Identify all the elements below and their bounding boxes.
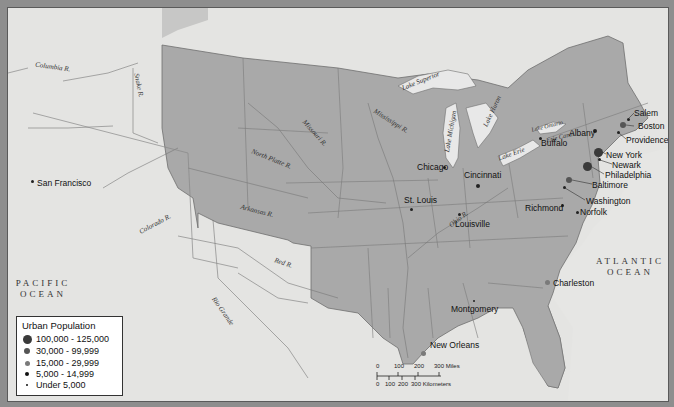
legend-symbol-small-gray-circle — [25, 361, 30, 366]
city-label-salem: Salem — [634, 109, 658, 118]
legend-label: 30,000 - 99,999 — [36, 346, 99, 356]
legend-title: Urban Population — [22, 320, 95, 331]
legend-symbol-tiny-dot — [26, 384, 29, 387]
ocean-label-pacific: PACIFIC OCEAN — [8, 278, 78, 301]
city-label-washington: Washington — [586, 197, 631, 206]
city-label-montgomery: Montgomery — [451, 305, 498, 314]
city-dot-louisville — [458, 213, 461, 216]
city-label-albany: Albany — [569, 129, 595, 138]
city-label-louisville: Louisville — [455, 220, 490, 229]
legend-label: 15,000 - 29,999 — [36, 358, 99, 368]
ocean-label-atlantic: ATLANTIC OCEAN — [590, 256, 669, 279]
city-dot-salem — [627, 118, 630, 121]
legend-label: 5,000 - 14,999 — [36, 369, 94, 379]
city-label-san-francisco: San Francisco — [37, 179, 91, 188]
legend-symbol-small-dot — [25, 372, 29, 376]
legend: Urban Population 100,000 - 125,000 30,00… — [16, 316, 123, 396]
legend-symbol-large-circle — [23, 335, 32, 344]
city-dot-newark — [598, 158, 601, 161]
legend-item-under-5000: Under 5,000 — [22, 380, 86, 390]
city-label-richmond: Richmond — [525, 204, 563, 213]
scale-bar: 0 100 200 300 Miles 0 100 200 300 Kilome… — [376, 363, 516, 391]
city-label-chicago: Chicago — [417, 163, 448, 172]
city-label-st-louis: St. Louis — [404, 196, 437, 205]
city-dot-norfolk — [576, 211, 579, 214]
city-dot-philadelphia — [583, 162, 592, 171]
city-label-boston: Boston — [638, 122, 664, 131]
city-dot-baltimore — [566, 177, 572, 183]
city-label-newark: Newark — [612, 161, 641, 170]
scale-miles-300: 300 Miles — [434, 363, 460, 369]
city-dot-boston — [620, 122, 626, 128]
city-dot-montgomery — [473, 300, 475, 302]
scale-miles-0: 0 — [376, 363, 379, 369]
city-label-buffalo: Buffalo — [541, 139, 567, 148]
city-label-philadelphia: Philadelphia — [605, 171, 651, 180]
city-label-charleston: Charleston — [553, 279, 594, 288]
map-canvas: PACIFIC OCEAN ATLANTIC OCEAN Columbia R.… — [7, 7, 669, 402]
scale-miles-100: 100 — [394, 363, 404, 369]
city-dot-providence — [617, 131, 620, 134]
city-dot-cincinnati — [476, 184, 480, 188]
scale-miles-200: 200 — [414, 363, 424, 369]
legend-symbol-medium-circle — [24, 348, 30, 354]
city-dot-new-orleans — [421, 351, 426, 356]
scale-km-300: 300 Kilometers — [411, 381, 451, 387]
city-label-baltimore: Baltimore — [592, 181, 628, 190]
scale-km-100: 100 — [385, 381, 395, 387]
scale-km-0: 0 — [376, 381, 379, 387]
city-label-new-york: New York — [606, 151, 642, 160]
scale-km-200: 200 — [398, 381, 408, 387]
city-dot-charleston — [545, 280, 550, 285]
city-dot-san-francisco — [31, 180, 34, 183]
legend-item-100000-125000: 100,000 - 125,000 — [22, 334, 109, 344]
legend-item-15000-29999: 15,000 - 29,999 — [22, 358, 99, 368]
legend-item-30000-99999: 30,000 - 99,999 — [22, 346, 99, 356]
city-dot-washington — [563, 186, 566, 189]
city-label-providence: Providence — [626, 136, 669, 145]
city-label-norfolk: Norfolk — [580, 208, 607, 217]
city-label-cincinnati: Cincinnati — [464, 171, 501, 180]
city-dot-st-louis — [410, 208, 413, 211]
legend-item-5000-14999: 5,000 - 14,999 — [22, 369, 94, 379]
legend-label: 100,000 - 125,000 — [36, 334, 109, 344]
city-label-new-orleans: New Orleans — [430, 341, 479, 350]
legend-label: Under 5,000 — [36, 380, 86, 390]
city-dot-new-york — [594, 148, 603, 157]
